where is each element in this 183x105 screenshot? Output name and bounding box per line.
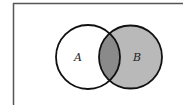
venn-diagram: A B <box>0 0 183 105</box>
set-a-label: A <box>73 51 82 64</box>
set-b-label: B <box>132 51 141 64</box>
